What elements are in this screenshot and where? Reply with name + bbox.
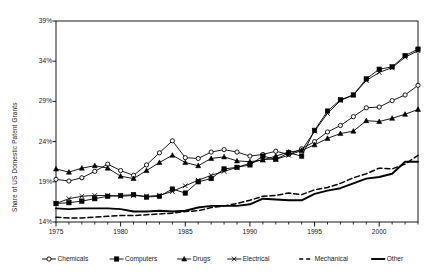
legend-label-drugs[interactable]: Drugs bbox=[193, 255, 211, 262]
y-tick-label: 19% bbox=[20, 178, 52, 185]
marker-open-circle bbox=[403, 93, 407, 97]
legend-entry-drugs[interactable] bbox=[177, 256, 191, 261]
series-electrical bbox=[54, 48, 421, 205]
legend-entry-computers[interactable] bbox=[110, 257, 124, 261]
marker-open-circle bbox=[170, 139, 174, 143]
x-tick-label: 1980 bbox=[101, 228, 141, 235]
marker-open-circle bbox=[144, 163, 148, 167]
marker-open-circle bbox=[222, 148, 226, 152]
legend-entry-electrical[interactable] bbox=[227, 257, 241, 262]
legend-label-electrical[interactable]: Electrical bbox=[243, 255, 270, 262]
marker-filled-triangle bbox=[416, 107, 421, 112]
legend-label-chemicals[interactable]: Chemicals bbox=[58, 255, 89, 262]
series-computers bbox=[54, 47, 420, 206]
marker-filled-square bbox=[299, 154, 303, 158]
marker-filled-triangle bbox=[183, 160, 188, 165]
marker-filled-square bbox=[118, 193, 122, 197]
legend-label-computers[interactable]: Computers bbox=[125, 255, 157, 262]
marker-open-circle bbox=[390, 98, 394, 102]
marker-filled-triangle bbox=[170, 153, 175, 158]
marker-open-circle bbox=[183, 156, 187, 160]
marker-open-circle bbox=[274, 149, 278, 153]
marker-filled-square bbox=[131, 192, 135, 196]
marker-open-circle bbox=[80, 176, 84, 180]
y-tick-label: 39% bbox=[20, 17, 52, 24]
marker-filled-square bbox=[183, 191, 187, 195]
marker-open-circle bbox=[364, 106, 368, 110]
marker-filled-square bbox=[325, 109, 329, 113]
marker-filled-square bbox=[67, 201, 71, 205]
marker-open-circle bbox=[338, 123, 342, 127]
chart-canvas bbox=[0, 0, 431, 277]
marker-open-circle bbox=[209, 150, 213, 154]
marker-open-circle bbox=[54, 177, 58, 181]
marker-filled-square bbox=[144, 195, 148, 199]
marker-open-circle bbox=[416, 83, 420, 87]
marker-filled-square bbox=[80, 199, 84, 203]
marker-open-circle bbox=[157, 151, 161, 155]
y-tick-label: 29% bbox=[20, 97, 52, 104]
marker-open-circle bbox=[248, 154, 252, 158]
marker-filled-triangle bbox=[144, 168, 149, 173]
marker-filled-triangle bbox=[92, 163, 97, 168]
marker-open-circle bbox=[93, 169, 97, 173]
x-tick-label: 1975 bbox=[36, 228, 76, 235]
marker-open-circle bbox=[325, 130, 329, 134]
marker-open-circle bbox=[377, 105, 381, 109]
x-tick-label: 1990 bbox=[230, 228, 270, 235]
marker-open-circle bbox=[119, 168, 123, 172]
marker-open-circle bbox=[67, 179, 71, 183]
legend-label-other[interactable]: Other bbox=[387, 255, 404, 262]
marker-open-circle bbox=[235, 150, 239, 154]
x-tick-label: 1995 bbox=[295, 228, 335, 235]
marker-filled-triangle bbox=[118, 174, 123, 179]
marker-filled-square bbox=[114, 257, 118, 261]
patent-share-line-chart: Share of US Domestic Patent Grants 39%34… bbox=[0, 0, 431, 277]
marker-open-circle bbox=[351, 115, 355, 119]
legend-entry-chemicals[interactable] bbox=[42, 257, 56, 261]
y-tick-label: 34% bbox=[20, 57, 52, 64]
plot-frame bbox=[56, 21, 418, 222]
y-tick-label: 14% bbox=[20, 218, 52, 225]
marker-filled-triangle bbox=[157, 160, 162, 165]
marker-x-cross bbox=[183, 184, 188, 189]
legend-label-mechanical[interactable]: Mechanical bbox=[315, 255, 348, 262]
marker-open-circle bbox=[47, 257, 51, 261]
y-tick-label: 24% bbox=[20, 138, 52, 145]
marker-filled-triangle bbox=[222, 154, 227, 159]
x-tick-label: 1985 bbox=[165, 228, 205, 235]
marker-filled-triangle bbox=[54, 166, 59, 171]
series-line bbox=[56, 51, 418, 204]
x-tick-label: 2000 bbox=[359, 228, 399, 235]
marker-filled-square bbox=[106, 194, 110, 198]
marker-open-circle bbox=[196, 156, 200, 160]
